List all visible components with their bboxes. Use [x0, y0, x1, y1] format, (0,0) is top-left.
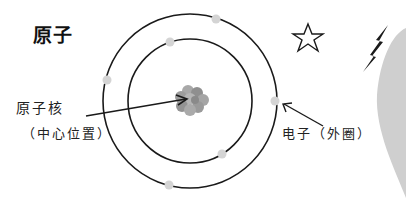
- backdrop-shape: [377, 28, 406, 198]
- star-icon: [293, 24, 323, 51]
- electron-icon: [166, 38, 175, 47]
- nucleus-label: 原子核: [16, 97, 64, 117]
- electron-icon: [165, 181, 174, 190]
- electron-label: 电子（外圈）: [282, 123, 372, 142]
- electron-icon: [103, 76, 112, 85]
- page-title: 原子: [33, 20, 73, 47]
- electron-icon: [212, 15, 221, 24]
- nucleus-arrow: [86, 95, 187, 116]
- electron-icon: [218, 150, 227, 159]
- electron-icon: [271, 97, 280, 106]
- nucleus-note-label: （中心位置）: [22, 123, 112, 142]
